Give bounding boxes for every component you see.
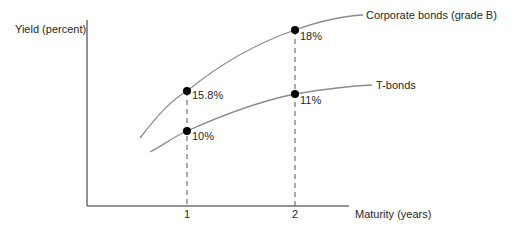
data-point-corporate-2 <box>291 26 299 34</box>
series-label-corporate: Corporate bonds (grade B) <box>366 9 497 21</box>
data-label-tbonds-1: 10% <box>192 130 214 142</box>
corporate-bonds-curve <box>140 15 363 138</box>
yield-curve-chart: 15.8% 10% 18% 11% Corporate bonds (grade… <box>0 0 516 233</box>
x-tick-label-1: 1 <box>184 208 190 220</box>
x-axis-label: Maturity (years) <box>355 208 431 220</box>
y-axis-label: Yield (percent) <box>15 23 86 35</box>
series-label-tbonds: T-bonds <box>376 79 416 91</box>
data-point-corporate-1 <box>183 87 191 95</box>
data-label-corporate-1: 15.8% <box>192 89 223 101</box>
data-point-tbonds-1 <box>183 127 191 135</box>
data-point-tbonds-2 <box>291 90 299 98</box>
data-label-corporate-2: 18% <box>300 30 322 42</box>
t-bonds-curve <box>150 85 372 152</box>
x-tick-label-2: 2 <box>292 208 298 220</box>
data-label-tbonds-2: 11% <box>300 94 321 106</box>
